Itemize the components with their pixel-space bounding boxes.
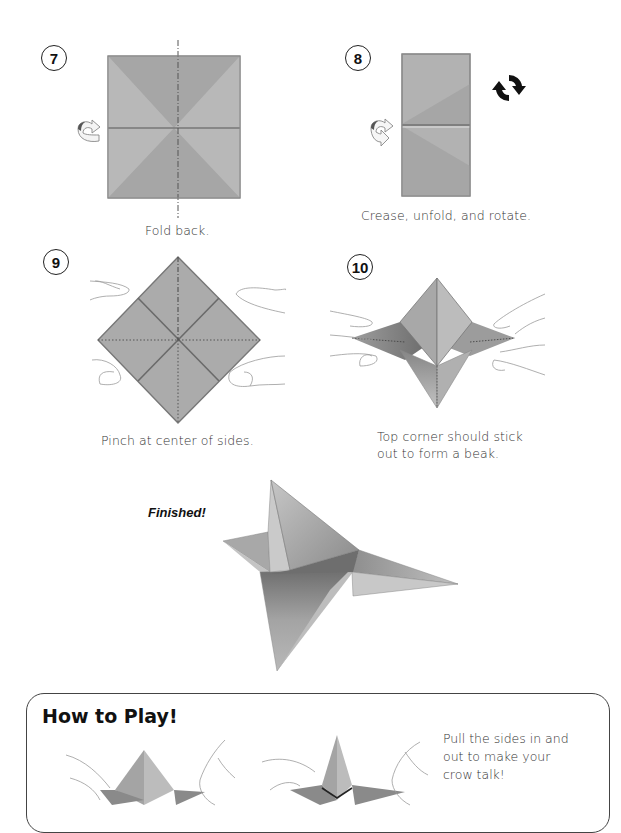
how-to-play-line3: crow talk! [443,766,583,784]
how-to-play-instructions: Pull the sides in and out to make your c… [443,730,583,784]
how-to-play-line1: Pull the sides in and [443,730,583,748]
how-to-play-line2: out to make your [443,748,583,766]
